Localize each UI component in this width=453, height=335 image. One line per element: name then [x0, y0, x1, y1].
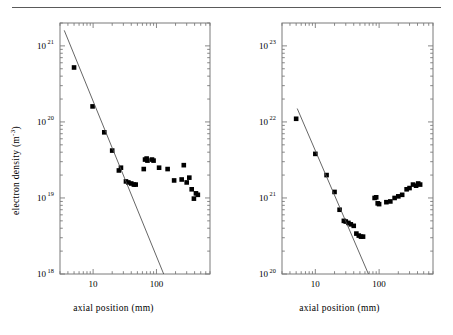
electron-density-plot: 101001018101910201021 [0, 0, 227, 335]
svg-text:10: 10 [37, 41, 47, 51]
x-axis-title-right: axial position (mm) [226, 303, 453, 313]
svg-text:23: 23 [270, 38, 276, 45]
svg-text:10: 10 [259, 41, 269, 51]
svg-text:10: 10 [311, 279, 321, 289]
svg-text:10: 10 [259, 117, 269, 127]
svg-text:21: 21 [270, 190, 276, 197]
svg-text:19: 19 [48, 190, 54, 197]
svg-text:22: 22 [270, 114, 276, 121]
svg-text:21: 21 [48, 38, 54, 45]
svg-text:18: 18 [48, 267, 54, 274]
svg-text:100: 100 [150, 279, 164, 289]
svg-text:10: 10 [89, 279, 99, 289]
svg-text:10: 10 [259, 269, 269, 279]
svg-text:10: 10 [37, 117, 47, 127]
svg-text:10: 10 [259, 193, 269, 203]
svg-text:20: 20 [48, 114, 54, 121]
svg-text:20: 20 [270, 267, 276, 274]
chart-panel-electron-density: 101001018101910201021 axial position (mm… [0, 0, 227, 335]
y-axis-title-left: electron density (m-3) [9, 126, 21, 215]
svg-text:10: 10 [37, 193, 47, 203]
svg-text:100: 100 [372, 279, 386, 289]
svg-text:10: 10 [37, 269, 47, 279]
x-axis-title-left: axial position (mm) [0, 303, 227, 313]
chart-panel-neutral-density: 101001020102110221023 axial position (mm… [226, 0, 453, 335]
neutral-density-plot: 101001020102110221023 [226, 0, 453, 335]
